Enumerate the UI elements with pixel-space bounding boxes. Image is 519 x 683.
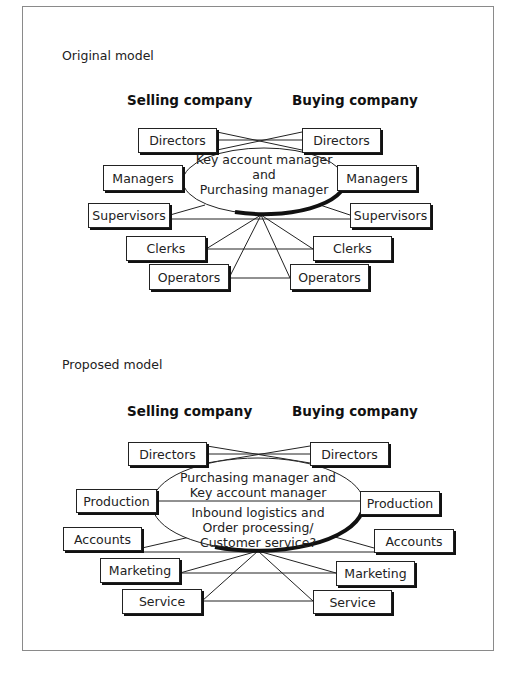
proposed-selling-production: Production <box>76 489 157 513</box>
proposed-center-lower-line-1: Inbound logistics and <box>158 505 358 520</box>
proposed-selling-accounts: Accounts <box>63 527 142 551</box>
proposed-center-upper-line-2: Key account manager <box>158 485 358 500</box>
proposed-center-upper: Purchasing manager and Key account manag… <box>158 470 358 500</box>
proposed-selling-marketing: Marketing <box>100 558 180 583</box>
proposed-center-lower-line-2: Order processing/ <box>158 520 358 535</box>
proposed-center-upper-line-1: Purchasing manager and <box>158 470 358 485</box>
proposed-buying-accounts: Accounts <box>374 529 454 553</box>
proposed-selling-directors: Directors <box>128 442 207 466</box>
proposed-buying-directors: Directors <box>310 442 389 466</box>
proposed-buying-service: Service <box>313 590 392 614</box>
proposed-buying-marketing: Marketing <box>336 561 415 586</box>
proposed-selling-service: Service <box>122 589 202 614</box>
proposed-buying-production: Production <box>360 491 440 515</box>
proposed-center-lower-line-3: Customer service? <box>158 535 358 550</box>
proposed-connector-lines <box>0 0 519 683</box>
proposed-center-lower: Inbound logistics and Order processing/ … <box>158 505 358 550</box>
